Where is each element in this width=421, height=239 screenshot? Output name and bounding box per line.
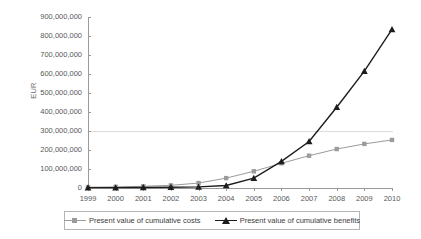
- legend-entry-benefits: Present value of cumulative benefits: [215, 216, 360, 225]
- chart-container: EUR 900,000,000800,000,000700,000,000600…: [0, 0, 421, 239]
- data-point-triangle-marker: [389, 26, 396, 32]
- data-point-square-marker: [307, 154, 311, 158]
- data-point-square-marker: [335, 147, 339, 151]
- legend-label-costs: Present value of cumulative costs: [89, 216, 201, 225]
- legend-triangle-marker-icon: [215, 216, 237, 225]
- legend-entry-costs: Present value of cumulative costs: [64, 216, 201, 225]
- data-point-square-marker: [252, 169, 256, 173]
- series-line: [88, 29, 392, 187]
- series-layer: [0, 0, 421, 239]
- legend-square-marker-icon: [64, 216, 86, 225]
- series-line: [88, 140, 392, 187]
- data-point-square-marker: [224, 176, 228, 180]
- data-point-square-marker: [390, 138, 394, 142]
- chart-legend: Present value of cumulative costs Presen…: [64, 211, 360, 230]
- legend-label-benefits: Present value of cumulative benefits: [240, 216, 360, 225]
- series-benefits: [85, 26, 396, 190]
- data-point-triangle-marker: [250, 175, 257, 181]
- data-point-square-marker: [362, 142, 366, 146]
